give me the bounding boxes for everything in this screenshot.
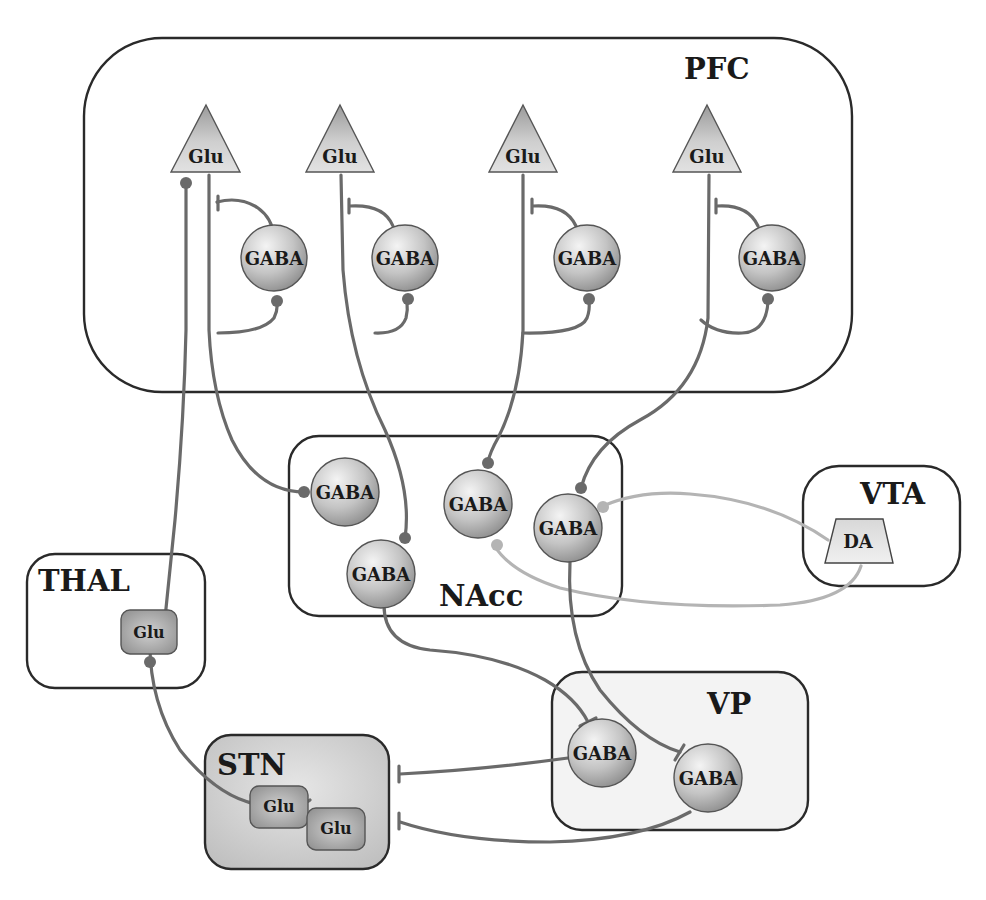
node-label: Glu: [689, 146, 724, 167]
node-label: GABA: [245, 248, 305, 269]
excitatory-synapse-icon: [298, 486, 310, 498]
node-label: GABA: [573, 743, 633, 764]
pfc-gaba-neuron-4[interactable]: GABA: [739, 225, 805, 291]
node-label: DA: [843, 531, 874, 552]
region-label-nacc: NAcc: [439, 579, 523, 613]
dopamine-synapse-icon: [597, 501, 609, 513]
node-label: GABA: [316, 482, 376, 503]
node-label: GABA: [539, 518, 599, 539]
node-label: GABA: [449, 494, 509, 515]
vta-da-neuron[interactable]: DA: [825, 519, 893, 563]
excitatory-synapse-icon: [583, 293, 595, 305]
region-pfc: PFC: [84, 38, 852, 392]
nacc-gaba-neuron-3[interactable]: GABA: [534, 494, 602, 562]
nacc-gaba-neuron-1[interactable]: GABA: [311, 458, 379, 526]
vp-gaba-neuron-1[interactable]: GABA: [568, 719, 636, 787]
thal-glu-neuron[interactable]: Glu: [121, 610, 177, 654]
nacc-gaba-neuron-2[interactable]: GABA: [444, 470, 512, 538]
stn-glu-neuron-2[interactable]: Glu: [307, 808, 365, 850]
region-label-thal: THAL: [38, 564, 130, 598]
region-label-pfc: PFC: [684, 52, 749, 86]
node-label: GABA: [679, 768, 739, 789]
node-label: Glu: [320, 819, 352, 838]
node-label: GABA: [743, 248, 803, 269]
node-label: Glu: [188, 146, 223, 167]
excitatory-synapse-icon: [402, 293, 414, 305]
pfc-gaba-neuron-1[interactable]: GABA: [241, 225, 307, 291]
dopamine-synapse-icon: [491, 539, 503, 551]
pfc-gaba-neuron-2[interactable]: GABA: [372, 225, 438, 291]
excitatory-synapse-icon: [271, 295, 283, 307]
excitatory-synapse-icon: [144, 656, 156, 668]
nacc-gaba-neuron-4[interactable]: GABA: [347, 540, 415, 608]
node-label: Glu: [263, 797, 295, 816]
axon-vta-to-nacc3: [603, 493, 828, 540]
region-thal: THAL: [27, 554, 205, 688]
axon-vp1-to-stn: [400, 758, 568, 774]
pfc-gaba-neuron-3[interactable]: GABA: [554, 225, 620, 291]
node-label: Glu: [322, 146, 357, 167]
excitatory-synapse-icon: [575, 482, 587, 494]
node-label: GABA: [352, 564, 412, 585]
node-label: GABA: [558, 248, 618, 269]
excitatory-synapse-icon: [180, 177, 192, 189]
region-label-stn: STN: [217, 748, 286, 782]
excitatory-synapse-icon: [762, 293, 774, 305]
vp-gaba-neuron-2[interactable]: GABA: [674, 744, 742, 812]
region-label-vp: VP: [706, 687, 752, 721]
circuit-diagram: PFC NAcc VTA THAL VP STN: [0, 0, 986, 900]
region-label-vta: VTA: [859, 477, 925, 511]
excitatory-synapse-icon: [399, 532, 411, 544]
node-label: Glu: [505, 146, 540, 167]
stn-glu-neuron-1[interactable]: Glu: [250, 786, 308, 828]
excitatory-synapse-icon: [482, 457, 494, 469]
node-label: GABA: [376, 248, 436, 269]
node-label: Glu: [133, 623, 165, 642]
